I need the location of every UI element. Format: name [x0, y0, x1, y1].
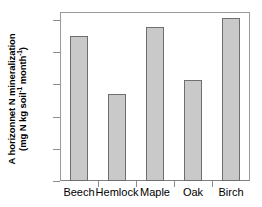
- bars-layer: [60, 12, 250, 181]
- y-axis-tick: [53, 149, 60, 150]
- x-axis-tick: [174, 181, 175, 187]
- y-axis-tick: [53, 20, 60, 21]
- y-axis-title-line2-prefix: (mg N kg soil: [17, 93, 28, 151]
- x-axis-label-maple: Maple: [140, 186, 170, 198]
- y-axis-tick: [53, 52, 60, 53]
- y-axis-tick: [53, 181, 60, 182]
- x-axis-label-birch: Birch: [218, 186, 243, 198]
- x-axis-tick: [212, 181, 213, 187]
- y-axis-title-line2: (mg N kg soil-1 month-1): [17, 47, 28, 151]
- y-axis-title-line2-suffix: ): [17, 47, 28, 50]
- bar-oak: [184, 80, 202, 181]
- y-axis-title-line2-mid: month: [17, 56, 28, 87]
- y-axis-tick: [53, 84, 60, 85]
- y-axis-title: A horizonnet N mineralization (mg N kg s…: [2, 11, 32, 187]
- y-axis-title-sup-2: -1: [16, 50, 23, 56]
- x-axis-label-beech: Beech: [63, 186, 94, 198]
- bar-hemlock: [108, 94, 126, 181]
- bar-beech: [70, 36, 88, 181]
- bar-birch: [222, 18, 240, 181]
- bar-chart-figure: A horizonnet N mineralization (mg N kg s…: [0, 0, 262, 207]
- y-axis-title-sup-1: -1: [16, 87, 23, 93]
- x-axis-label-oak: Oak: [183, 186, 203, 198]
- y-axis-tick: [53, 117, 60, 118]
- x-axis-label-hemlock: Hemlock: [96, 186, 139, 198]
- bar-maple: [146, 27, 164, 182]
